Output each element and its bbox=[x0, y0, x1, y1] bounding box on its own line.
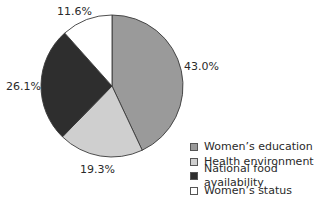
legend-swatch bbox=[190, 187, 198, 195]
legend-swatch bbox=[190, 158, 198, 166]
legend-item-national-food: National food availability bbox=[190, 169, 322, 184]
legend-item-womens-education: Women’s education bbox=[190, 140, 322, 155]
legend-label: Women’s status bbox=[204, 184, 292, 199]
legend-label: Women’s education bbox=[204, 140, 313, 155]
slice-label-national-food: 26.1% bbox=[6, 80, 41, 93]
legend-swatch bbox=[190, 143, 198, 151]
slice-label-health-environment: 19.3% bbox=[80, 163, 115, 176]
pie-slices bbox=[41, 15, 183, 157]
slice-label-womens-education: 43.0% bbox=[184, 60, 219, 73]
legend: Women’s education Health environment Nat… bbox=[190, 140, 322, 198]
legend-swatch bbox=[190, 172, 198, 180]
slice-label-womens-status: 11.6% bbox=[57, 5, 92, 18]
